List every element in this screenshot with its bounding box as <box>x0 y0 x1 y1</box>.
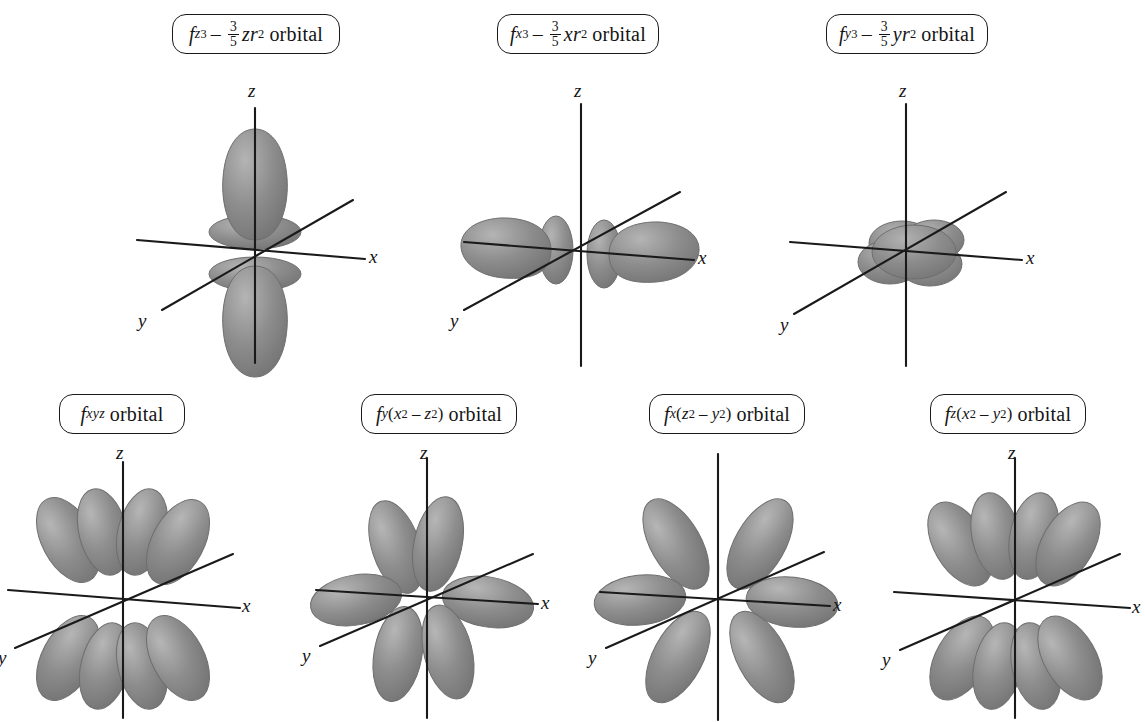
fraction-numerator: 3 <box>550 20 561 35</box>
orbital-label-fz3: fz3 – 3 5 zr2 orbital <box>172 14 340 54</box>
label-minus: – <box>211 24 221 44</box>
label-paren-close: ) <box>438 406 444 423</box>
label-minus: – <box>412 406 421 423</box>
axis-label-x: x <box>1026 247 1034 269</box>
label-term-1: z <box>682 406 689 423</box>
axis-label-y: y <box>138 310 146 332</box>
fraction-denominator: 5 <box>550 35 561 49</box>
label-f: f <box>839 24 845 44</box>
label-orbital-word: orbital <box>921 24 975 44</box>
orbital-label-fxyz: fxyz orbital <box>59 394 185 434</box>
axis-y <box>794 192 1006 314</box>
label-term-2: y <box>712 406 720 423</box>
label-fraction: 3 5 <box>879 20 890 49</box>
axis-label-y: y <box>450 310 458 332</box>
axis-label-x: x <box>833 594 841 616</box>
orbital-label-fy3: fy3 – 3 5 yr2 orbital <box>826 14 988 54</box>
orbital-label-fy-x2-z2: fy(x2–z2) orbital <box>361 394 517 434</box>
fraction-numerator: 3 <box>879 20 890 35</box>
label-term-2: y <box>993 406 1001 423</box>
fraction-denominator: 5 <box>228 35 239 49</box>
label-term: xr <box>564 24 581 44</box>
axis-label-y: y <box>302 645 310 667</box>
axis-label-y: y <box>588 647 596 669</box>
orbital-diagram-fy3: z x y <box>782 82 1052 372</box>
label-term: zr <box>242 24 258 44</box>
orbital-diagram-fy-x2-z2: z x y <box>288 452 568 722</box>
label-orbital-word: orbital <box>736 404 790 424</box>
label-minus: – <box>533 24 543 44</box>
fraction-denominator: 5 <box>879 35 890 49</box>
axis-label-z: z <box>248 80 255 102</box>
axis-label-x: x <box>369 246 377 268</box>
label-f: f <box>664 404 670 424</box>
axis-label-x: x <box>698 247 706 269</box>
label-minus: – <box>980 406 989 423</box>
axis-label-z: z <box>420 442 427 464</box>
axis-label-z: z <box>574 80 581 102</box>
label-orbital-word: orbital <box>592 24 646 44</box>
axis-label-y: y <box>780 314 788 336</box>
label-term: yr <box>893 24 910 44</box>
label-f: f <box>510 24 516 44</box>
label-minus: – <box>862 24 872 44</box>
axis-label-z: z <box>116 442 123 464</box>
label-term-1: x <box>394 406 402 423</box>
orbital-lobes <box>306 492 537 705</box>
axis-label-y: y <box>0 647 6 669</box>
axis-label-z: z <box>899 80 906 102</box>
orbital-label-fx3: fx3 – 3 5 xr2 orbital <box>497 14 659 54</box>
label-paren-close: ) <box>1007 406 1013 423</box>
label-paren-close: ) <box>726 406 732 423</box>
label-orbital-word: orbital <box>269 24 323 44</box>
label-f: f <box>376 404 382 424</box>
fraction-numerator: 3 <box>228 20 239 35</box>
orbital-lobes <box>858 220 964 286</box>
orbital-diagram-fxyz: z x y <box>0 452 270 722</box>
label-f: f <box>945 404 951 424</box>
label-orbital-word: orbital <box>1018 404 1072 424</box>
orbital-label-fx-z2-y2: fx(z2–y2) orbital <box>649 394 805 434</box>
axes <box>790 104 1022 366</box>
label-term-2: z <box>425 406 432 423</box>
axis-label-x: x <box>1132 596 1140 618</box>
label-fraction: 3 5 <box>550 20 561 49</box>
orbital-diagram-fx-z2-y2: x y <box>578 452 858 722</box>
axis-label-y: y <box>882 649 890 671</box>
label-minus: – <box>699 406 708 423</box>
label-orbital-word: orbital <box>110 404 164 424</box>
label-fraction: 3 5 <box>228 20 239 49</box>
label-term-1: x <box>962 406 970 423</box>
orbital-diagram-fx3: z x y <box>452 82 722 372</box>
axis-label-z: z <box>1008 442 1015 464</box>
axis-label-x: x <box>541 592 549 614</box>
orbital-diagram-fz-x2-y2: z x y <box>872 452 1145 722</box>
axis-label-x: x <box>242 595 250 617</box>
label-f: f <box>189 24 195 44</box>
lobe-x-positive <box>609 222 699 282</box>
label-orbital-word: orbital <box>448 404 502 424</box>
orbital-diagram-fz3: z x y <box>120 82 390 372</box>
orbital-label-fz-x2-y2: fz(x2–y2) orbital <box>930 394 1086 434</box>
